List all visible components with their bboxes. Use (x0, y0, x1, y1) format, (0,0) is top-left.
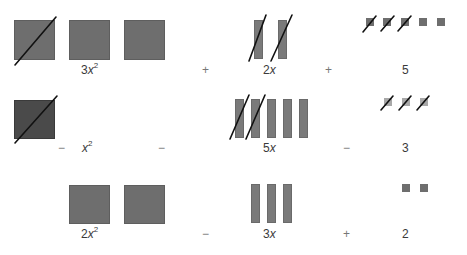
cancellation-slashes (0, 0, 467, 255)
